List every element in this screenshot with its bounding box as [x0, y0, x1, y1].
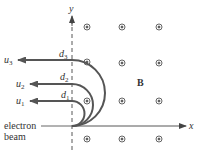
field-dot-icon	[84, 98, 90, 104]
electron-beam-label-line1: electron	[4, 120, 36, 131]
field-dot-icon	[156, 136, 162, 142]
field-dot-icon	[119, 60, 125, 66]
y-axis-label: y	[68, 3, 74, 14]
field-dot-icon	[156, 60, 162, 66]
electron-beam-label-line2: beam	[4, 131, 26, 142]
speed-label-u1: u1	[16, 95, 25, 108]
field-dot-icon	[156, 98, 162, 104]
speed-label-u2: u2	[16, 78, 25, 91]
magnetic-field-label: B	[137, 77, 144, 88]
x-axis-label: x	[188, 120, 194, 131]
field-dot-icon	[119, 136, 125, 142]
speed-label-u3: u3	[4, 54, 13, 67]
magnetic-field-electron-diagram: y x electron beam u3 u2 u1 d3 d2 d1 B	[0, 0, 204, 154]
field-dot-icon	[84, 24, 90, 30]
field-dot-icon	[156, 24, 162, 30]
field-dot-icon	[119, 98, 125, 104]
field-dot-icon	[84, 136, 90, 142]
distance-label-d2: d2	[60, 71, 69, 84]
trajectory-u1	[30, 101, 85, 126]
field-dot-icon	[119, 24, 125, 30]
magnetic-field-dots	[84, 24, 162, 142]
